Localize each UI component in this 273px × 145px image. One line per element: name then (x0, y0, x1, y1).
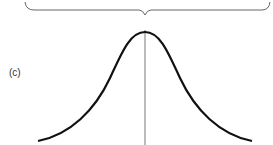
bell-curve-diagram (0, 0, 273, 145)
curly-brace (25, 2, 270, 15)
